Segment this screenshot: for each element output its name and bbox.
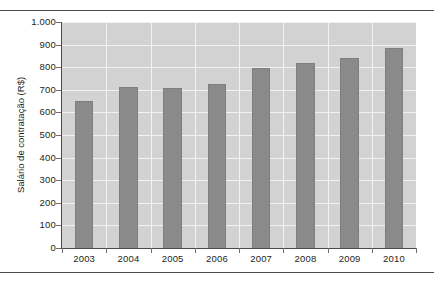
x-tick-label-2006: 2006 [195, 254, 239, 264]
x-tick-mark [416, 248, 417, 253]
y-tick-mark [56, 135, 61, 136]
y-tick-mark [56, 225, 61, 226]
bar-2005 [163, 88, 182, 249]
bar-series [62, 22, 416, 248]
bar-2007 [252, 68, 271, 248]
x-tick-label-2003: 2003 [62, 254, 106, 264]
x-tick-mark [239, 248, 240, 253]
bar-2009 [340, 58, 359, 248]
x-tick-mark [106, 248, 107, 253]
y-axis-line [61, 22, 62, 249]
plot-area [62, 22, 416, 248]
y-axis-title: Salário de contratação (R$) [14, 22, 28, 248]
bar-2004 [119, 87, 138, 248]
y-axis-tick-labels: 01002003004005006007008009001.000 [0, 0, 56, 283]
y-tick-mark [56, 22, 61, 23]
x-tick-label-2007: 2007 [239, 254, 283, 264]
x-tick-mark [195, 248, 196, 253]
bar-2003 [75, 101, 94, 248]
bar-chart-figure: 01002003004005006007008009001.000 Salári… [0, 0, 434, 283]
y-tick-mark [56, 180, 61, 181]
x-tick-mark [62, 248, 63, 253]
x-tick-label-2008: 2008 [283, 254, 327, 264]
x-tick-label-2009: 2009 [328, 254, 372, 264]
y-tick-mark [56, 248, 61, 249]
y-tick-mark [56, 67, 61, 68]
x-tick-label-2004: 2004 [106, 254, 150, 264]
x-tick-mark [283, 248, 284, 253]
y-tick-mark [56, 203, 61, 204]
top-divider-rule [0, 10, 434, 11]
x-tick-mark [328, 248, 329, 253]
bar-2010 [385, 48, 404, 248]
bar-2008 [296, 63, 315, 248]
y-tick-mark [56, 90, 61, 91]
x-tick-mark [372, 248, 373, 253]
y-tick-mark [56, 112, 61, 113]
bottom-divider-rule [0, 272, 434, 273]
y-tick-mark [56, 158, 61, 159]
x-tick-label-2005: 2005 [151, 254, 195, 264]
x-tick-mark [151, 248, 152, 253]
bar-2006 [208, 84, 227, 249]
y-tick-mark [56, 45, 61, 46]
x-tick-label-2010: 2010 [372, 254, 416, 264]
